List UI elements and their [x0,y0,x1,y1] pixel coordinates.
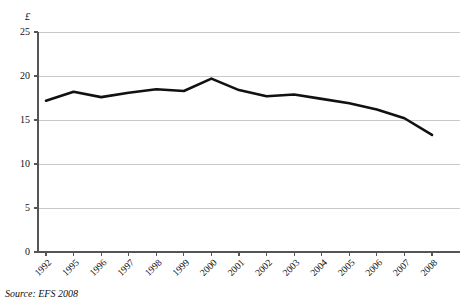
x-axis-ticks-group [46,252,432,256]
x-axis-tick-label: 2000 [197,256,218,277]
chart-figure: £ 0510152025 199219951996199719981999200… [0,0,470,308]
x-axis-tick-label: 2007 [390,256,411,277]
gridlines-group [38,32,460,208]
y-axis-tick-label: 15 [20,114,30,125]
x-axis-tick-label: 2001 [225,256,246,277]
y-axis-tick-label: 0 [25,246,30,257]
y-axis-labels-group: 0510152025 [20,26,30,257]
x-axis-tick-label: 1998 [142,256,163,277]
line-chart-plot: 0510152025 19921995199619971998199920002… [0,0,470,308]
x-axis-tick-label: 2002 [253,256,274,277]
data-series-group [46,79,432,135]
y-axis-tick-label: 10 [20,158,30,169]
y-axis-tick-label: 25 [20,26,30,37]
x-axis-tick-label: 2006 [363,256,384,277]
y-axis-tick-label: 5 [25,202,30,213]
x-axis-tick-label: 2005 [335,256,356,277]
x-axis-tick-label: 2008 [418,256,439,277]
axis-lines-group [38,32,460,252]
x-axis-labels-group: 1992199519961997199819992000200120022003… [32,256,439,277]
x-axis-tick-label: 1992 [32,256,53,277]
source-note: Source: EFS 2008 [5,288,78,299]
data-line [46,79,432,135]
x-axis-tick-label: 2004 [308,256,329,277]
x-axis-tick-label: 1997 [115,256,136,277]
x-axis-tick-label: 1995 [60,256,81,277]
x-axis-tick-label: 1999 [170,256,191,277]
x-axis-tick-label: 2003 [280,256,301,277]
y-axis-tick-label: 20 [20,70,30,81]
x-axis-tick-label: 1996 [87,256,108,277]
